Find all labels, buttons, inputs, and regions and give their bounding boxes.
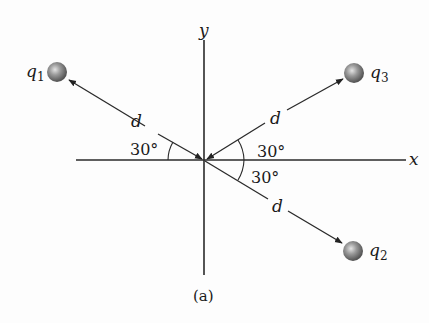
distance-label-q3: d xyxy=(270,108,281,128)
charge-q2-sphere xyxy=(343,241,363,261)
charge-q3-label: q3 xyxy=(370,62,389,85)
charge-q1-sphere xyxy=(47,62,67,82)
charge-q3-sphere xyxy=(344,63,364,83)
angle-arc-lower-right xyxy=(238,160,244,180)
vector-to-q2 xyxy=(288,211,342,243)
distance-label-q2: d xyxy=(272,196,283,216)
angle-arc-upper-right xyxy=(238,140,244,160)
charge-q1-label: q1 xyxy=(26,61,45,84)
figure-caption: (a) xyxy=(193,287,214,305)
angle-label-lower-right: 30° xyxy=(251,168,279,187)
vector-to-q3 xyxy=(287,79,343,110)
vector-q1-lower xyxy=(158,134,202,159)
angle-label-left: 30° xyxy=(130,140,158,159)
electric-charges-diagram: y x d d d 30° 30° 30° q1 q3 q2 (a) xyxy=(0,0,429,323)
angle-arc-left xyxy=(168,142,173,160)
distance-label-q1: d xyxy=(131,111,142,131)
charge-q2-label: q2 xyxy=(369,240,388,263)
angle-label-upper-right: 30° xyxy=(257,142,285,161)
x-axis-label: x xyxy=(409,149,419,169)
y-axis-label: y xyxy=(198,20,209,40)
